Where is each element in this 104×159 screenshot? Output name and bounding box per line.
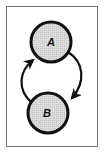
node-b: B (28, 93, 68, 133)
diagram-canvas: A B (0, 0, 104, 159)
node-a: A (31, 22, 71, 62)
node-a-label: A (46, 36, 55, 48)
node-b-label: B (43, 107, 51, 119)
